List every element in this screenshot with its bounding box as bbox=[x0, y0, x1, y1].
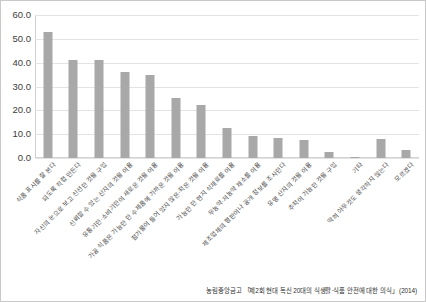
bar-slot bbox=[112, 15, 138, 158]
bar-slot bbox=[35, 15, 61, 158]
plot-area: 0.010.020.030.040.050.060.0 bbox=[35, 15, 419, 158]
y-axis-tick-label: 20.0 bbox=[13, 106, 32, 116]
bar[interactable] bbox=[402, 150, 411, 158]
y-axis-tick-label: 50.0 bbox=[13, 34, 32, 44]
y-axis-tick-label: 10.0 bbox=[13, 129, 32, 139]
y-axis-tick-label: 30.0 bbox=[13, 82, 32, 92]
bar-slot bbox=[137, 15, 163, 158]
x-axis-tick-label: 가공 식품은 가능한 한 수제품에 가까운 것을 이용 bbox=[86, 161, 185, 260]
bar-slot bbox=[368, 15, 394, 158]
bar[interactable] bbox=[299, 140, 308, 158]
bar-slot bbox=[189, 15, 215, 158]
bar[interactable] bbox=[274, 138, 283, 158]
bar-slot bbox=[265, 15, 291, 158]
bar-slot bbox=[214, 15, 240, 158]
x-axis-tick-label: 추적이 가능한 것을 구입 bbox=[287, 161, 338, 212]
x-axis-tick-label: 유명 산지의 것을 이용 bbox=[266, 161, 313, 208]
bar[interactable] bbox=[222, 128, 231, 158]
y-axis-tick-label: 0.0 bbox=[18, 153, 31, 163]
bar-slot bbox=[240, 15, 266, 158]
bar[interactable] bbox=[43, 32, 52, 158]
bar[interactable] bbox=[325, 152, 334, 158]
source-note: 농림중앙금고 「제2회 현대 독신 20대의 식생활·식품 안전에 대한 의식」… bbox=[206, 286, 417, 295]
chart-figure: 0.010.020.030.040.050.060.0 식품 표시를 잘 본다되… bbox=[0, 0, 426, 302]
bar[interactable] bbox=[69, 60, 78, 158]
bar[interactable] bbox=[376, 139, 385, 158]
bar-slot bbox=[86, 15, 112, 158]
y-axis-tick-label: 60.0 bbox=[13, 10, 32, 20]
gridline: 0.0 bbox=[35, 158, 419, 159]
bar-slot bbox=[291, 15, 317, 158]
bar[interactable] bbox=[350, 157, 359, 158]
bar[interactable] bbox=[94, 60, 103, 158]
bar-series bbox=[35, 15, 419, 158]
bar[interactable] bbox=[248, 136, 257, 158]
x-axis-tick-label: 기타 bbox=[351, 161, 365, 175]
bar-slot bbox=[393, 15, 419, 158]
bar-slot bbox=[61, 15, 87, 158]
bar[interactable] bbox=[171, 98, 180, 158]
bar-slot bbox=[342, 15, 368, 158]
bar[interactable] bbox=[146, 75, 155, 158]
bar-slot bbox=[317, 15, 343, 158]
x-axis-tick-label: 모르겠다 bbox=[393, 161, 415, 183]
bar-slot bbox=[163, 15, 189, 158]
bar[interactable] bbox=[197, 105, 206, 158]
bar[interactable] bbox=[120, 72, 129, 158]
y-axis-tick-label: 40.0 bbox=[13, 58, 32, 68]
